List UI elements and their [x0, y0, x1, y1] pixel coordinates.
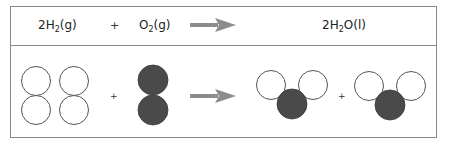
h2-molecule-2 [60, 67, 89, 125]
h2o-molecule-2 [355, 72, 426, 121]
h2o-molecule-1 [257, 71, 328, 120]
molecule-diagram [0, 0, 452, 148]
reaction-arrow-top-icon [190, 18, 236, 32]
h2-molecule-1 [22, 67, 51, 125]
o2-molecule [138, 65, 168, 125]
reaction-arrow-bottom-icon [190, 89, 236, 103]
